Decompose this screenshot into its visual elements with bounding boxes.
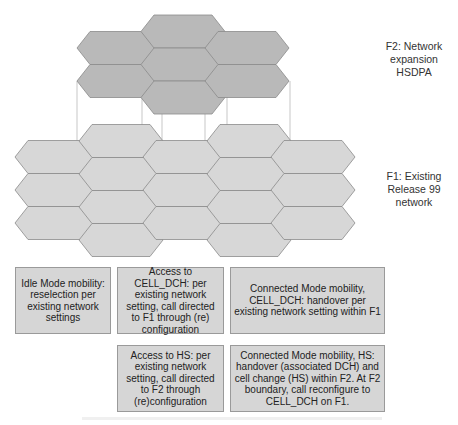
f2-label-line: F2: Network — [374, 40, 454, 53]
idle-mode-text: Idle Mode mobility: reselection per exis… — [19, 278, 107, 324]
f1-cell-layer — [15, 125, 355, 257]
f1-layer-label: F1: Existing Release 99 network — [374, 170, 454, 209]
hex-cell — [271, 207, 355, 240]
f2-layer-label: F2: Network expansion HSDPA — [374, 40, 454, 79]
idle-mode-box: Idle Mode mobility: reselection per exis… — [15, 267, 111, 334]
connected-cell-dch-text: Connected Mode mobility, CELL_DCH: hando… — [234, 283, 381, 318]
connected-cell-dch-box: Connected Mode mobility, CELL_DCH: hando… — [230, 267, 385, 334]
access-cell-dch-text: Access to CELL_DCH: per existing network… — [121, 266, 220, 335]
hex-cell — [271, 174, 355, 207]
connected-hs-box: Connected Mode mobility, HS: handover (a… — [230, 345, 385, 412]
access-hs-text: Access to HS: per existing network setti… — [121, 350, 220, 408]
access-hs-box: Access to HS: per existing network setti… — [117, 345, 224, 412]
f2-label-line: expansion — [374, 53, 454, 66]
f1-label-line: Release 99 — [374, 183, 454, 196]
f2-cell-layer — [77, 15, 289, 114]
f1-label-line: network — [374, 196, 454, 209]
hex-cell — [205, 32, 289, 65]
f2-label-line: HSDPA — [374, 66, 454, 79]
hex-cell — [271, 141, 355, 174]
hex-network-diagram — [0, 0, 458, 260]
figure-caption-strip — [82, 417, 382, 420]
hex-cell — [205, 65, 289, 98]
connected-hs-text: Connected Mode mobility, HS: handover (a… — [234, 350, 381, 408]
access-cell-dch-box: Access to CELL_DCH: per existing network… — [117, 267, 224, 334]
f1-label-line: F1: Existing — [374, 170, 454, 183]
